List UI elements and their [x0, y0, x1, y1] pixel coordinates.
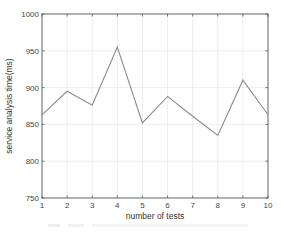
x-tick-label: 9	[241, 201, 246, 210]
x-axis-ticks: 12345678910	[40, 14, 273, 210]
x-tick-label: 4	[115, 201, 120, 210]
y-tick-label: 800	[26, 157, 40, 166]
plot-area	[42, 14, 268, 198]
x-tick-label: 5	[140, 201, 145, 210]
figure-caption	[48, 224, 248, 227]
x-tick-label: 7	[190, 201, 195, 210]
grid-lines	[42, 14, 268, 198]
x-tick-label: 1	[40, 201, 45, 210]
x-tick-label: 2	[65, 201, 70, 210]
series-line	[42, 47, 268, 135]
x-tick-label: 8	[216, 201, 221, 210]
y-tick-label: 950	[26, 47, 40, 56]
x-tick-label: 6	[165, 201, 170, 210]
y-tick-label: 900	[26, 84, 40, 93]
y-tick-label: 1000	[21, 10, 39, 19]
y-tick-label: 750	[26, 194, 40, 203]
x-axis-label: number of tests	[126, 211, 185, 221]
line-chart: 7508008509009501000 12345678910 number o…	[0, 0, 284, 232]
x-tick-label: 3	[90, 201, 95, 210]
y-tick-label: 850	[26, 120, 40, 129]
x-tick-label: 10	[264, 201, 273, 210]
y-axis-label: service analysis time(ms)	[4, 58, 14, 154]
